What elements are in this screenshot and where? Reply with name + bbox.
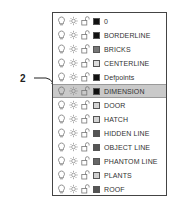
sun-icon[interactable] <box>69 156 78 166</box>
layer-color-swatch[interactable] <box>93 18 100 25</box>
layer-name: HATCH <box>104 116 128 123</box>
lightbulb-icon[interactable] <box>57 30 66 40</box>
lightbulb-icon[interactable] <box>57 142 66 152</box>
sun-icon[interactable] <box>69 142 78 152</box>
layer-name: DIMENSION <box>104 88 145 95</box>
sun-icon[interactable] <box>69 100 78 110</box>
lightbulb-icon[interactable] <box>57 184 66 194</box>
layer-color-swatch[interactable] <box>93 172 100 179</box>
layer-row[interactable]: HATCH <box>53 112 166 126</box>
layer-color-swatch[interactable] <box>93 130 100 137</box>
sun-icon[interactable] <box>69 128 78 138</box>
sun-icon[interactable] <box>69 86 78 96</box>
layer-color-swatch[interactable] <box>93 158 100 165</box>
lightbulb-icon[interactable] <box>57 72 66 82</box>
layer-name: ROOF <box>104 186 125 193</box>
unlock-icon[interactable] <box>81 58 90 68</box>
sun-icon[interactable] <box>69 16 78 26</box>
sun-icon[interactable] <box>69 170 78 180</box>
layer-row[interactable]: OBJECT LINE <box>53 140 166 154</box>
layer-name: HIDDEN LINE <box>104 130 149 137</box>
layer-color-swatch[interactable] <box>93 74 100 81</box>
layer-name: Defpoints <box>104 74 134 81</box>
layer-color-swatch[interactable] <box>93 102 100 109</box>
unlock-icon[interactable] <box>81 100 90 110</box>
lightbulb-icon[interactable] <box>57 114 66 124</box>
layer-color-swatch[interactable] <box>93 116 100 123</box>
lightbulb-icon[interactable] <box>57 44 66 54</box>
unlock-icon[interactable] <box>81 44 90 54</box>
layer-row[interactable]: HIDDEN LINE <box>53 126 166 140</box>
layer-dropdown-list[interactable]: 0 BORDERLINE BRICKS CENTERLINE Defpoints… <box>52 12 167 196</box>
layer-name: 0 <box>104 18 108 25</box>
unlock-icon[interactable] <box>81 184 90 194</box>
layer-name: OBJECT LINE <box>104 144 150 151</box>
sun-icon[interactable] <box>69 44 78 54</box>
unlock-icon[interactable] <box>81 86 90 96</box>
layer-row[interactable]: PLANTS <box>53 168 166 182</box>
layer-color-swatch[interactable] <box>93 144 100 151</box>
layer-name: PLANTS <box>104 172 132 179</box>
layer-row[interactable]: PHANTOM LINE <box>53 154 166 168</box>
layer-color-swatch[interactable] <box>93 32 100 39</box>
sun-icon[interactable] <box>69 58 78 68</box>
layer-row[interactable]: BORDERLINE <box>53 28 166 42</box>
unlock-icon[interactable] <box>81 72 90 82</box>
lightbulb-icon[interactable] <box>57 16 66 26</box>
sun-icon[interactable] <box>69 114 78 124</box>
unlock-icon[interactable] <box>81 156 90 166</box>
layer-name: CENTERLINE <box>104 60 149 67</box>
lightbulb-icon[interactable] <box>57 170 66 180</box>
callout-label: 2 <box>20 73 26 84</box>
unlock-icon[interactable] <box>81 128 90 138</box>
layer-row[interactable]: 0 <box>53 14 166 28</box>
layer-row[interactable]: DOOR <box>53 98 166 112</box>
layer-row[interactable]: ROOF <box>53 182 166 196</box>
lightbulb-icon[interactable] <box>57 58 66 68</box>
unlock-icon[interactable] <box>81 170 90 180</box>
layer-color-swatch[interactable] <box>93 88 100 95</box>
layer-color-swatch[interactable] <box>93 60 100 67</box>
sun-icon[interactable] <box>69 30 78 40</box>
unlock-icon[interactable] <box>81 114 90 124</box>
layer-row[interactable]: BRICKS <box>53 42 166 56</box>
unlock-icon[interactable] <box>81 142 90 152</box>
layer-color-swatch[interactable] <box>93 186 100 193</box>
layer-row[interactable]: CENTERLINE <box>53 56 166 70</box>
layer-color-swatch[interactable] <box>93 46 100 53</box>
layer-row[interactable]: DIMENSION <box>53 84 166 98</box>
layer-name: DOOR <box>104 102 125 109</box>
layer-row[interactable]: Defpoints <box>53 70 166 84</box>
sun-icon[interactable] <box>69 72 78 82</box>
layer-name: BRICKS <box>104 46 131 53</box>
lightbulb-icon[interactable] <box>57 128 66 138</box>
lightbulb-icon[interactable] <box>57 86 66 96</box>
layer-name: BORDERLINE <box>104 32 151 39</box>
lightbulb-icon[interactable] <box>57 156 66 166</box>
layer-name: PHANTOM LINE <box>104 158 158 165</box>
unlock-icon[interactable] <box>81 30 90 40</box>
unlock-icon[interactable] <box>81 16 90 26</box>
lightbulb-icon[interactable] <box>57 100 66 110</box>
sun-icon[interactable] <box>69 184 78 194</box>
